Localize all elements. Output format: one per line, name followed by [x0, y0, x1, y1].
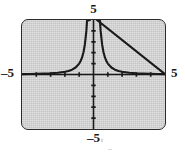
graph-figure: 5 –5 5 –5	[0, 0, 185, 154]
curve-branch-left	[22, 20, 90, 74]
calculator-screen	[21, 19, 166, 130]
y-axis-max-label: 5	[1, 2, 185, 15]
plot-canvas	[22, 20, 165, 129]
curve-branch-right	[97, 20, 165, 74]
scan-artifact	[108, 149, 112, 150]
y-axis-min-label: –5	[1, 131, 185, 144]
x-axis-min-label: –5	[1, 66, 14, 79]
x-axis-max-label: 5	[171, 66, 178, 79]
scan-artifact	[101, 139, 103, 142]
